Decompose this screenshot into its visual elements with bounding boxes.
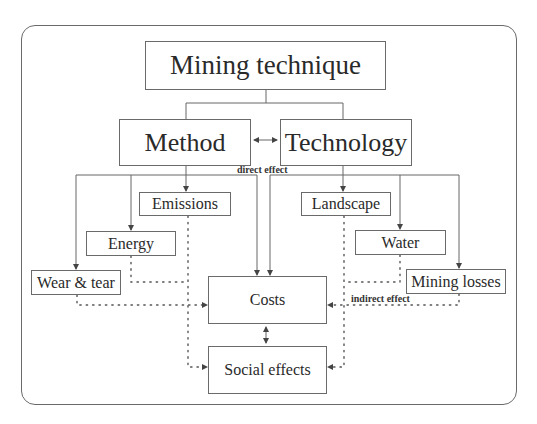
node-label: Mining technique (170, 50, 361, 81)
edge-wear-costs (77, 295, 205, 305)
node-wear-tear: Wear & tear (31, 270, 121, 295)
node-mining-technique: Mining technique (145, 41, 386, 90)
node-landscape: Landscape (301, 192, 391, 216)
label-indirect-effect: indirect effect (351, 293, 410, 304)
node-water: Water (355, 230, 446, 255)
node-label: Method (145, 128, 226, 158)
node-label: Mining losses (411, 273, 500, 291)
node-label: Energy (108, 235, 154, 253)
node-technology: Technology (280, 119, 412, 166)
node-costs: Costs (208, 276, 327, 324)
node-label: Technology (285, 128, 407, 158)
edge-root (186, 90, 343, 119)
node-energy: Energy (86, 231, 176, 256)
node-label: Costs (250, 291, 286, 309)
label-direct-effect: direct effect (237, 164, 288, 175)
edge-water-costs (344, 255, 400, 282)
node-label: Water (382, 234, 420, 252)
node-method: Method (119, 119, 251, 166)
edge-tech-trunk (270, 166, 459, 175)
node-emissions: Emissions (139, 192, 231, 216)
node-label: Landscape (312, 195, 380, 213)
node-label: Emissions (152, 195, 218, 213)
node-mining-losses: Mining losses (406, 269, 506, 294)
edge-emissions-social (188, 216, 205, 367)
edge-method-trunk (76, 166, 257, 175)
edge-energy-costs (131, 256, 188, 282)
mining-technique-diagram: Mining technique Method Technology direc… (0, 0, 537, 424)
node-social-effects: Social effects (208, 346, 327, 394)
edge-landscape-social (330, 216, 344, 367)
node-label: Wear & tear (37, 274, 115, 292)
node-label: Social effects (224, 361, 310, 379)
